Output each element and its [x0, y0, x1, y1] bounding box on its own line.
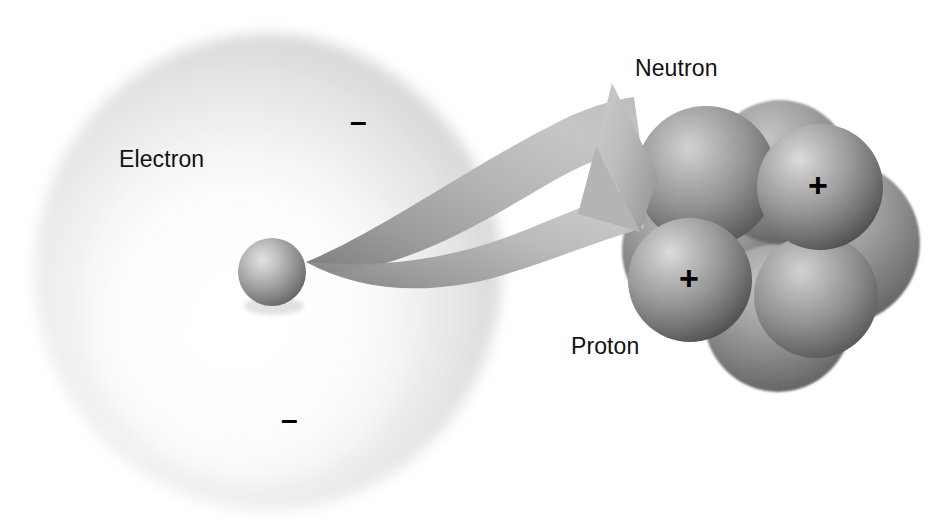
- proton-charge-plus-lower-left: +: [679, 261, 699, 295]
- diagram-svg: [0, 0, 943, 529]
- electron-particle-group: [238, 238, 306, 315]
- atom-diagram-canvas: Electron Neutron Proton – – + +: [0, 0, 943, 529]
- nucleus-cluster: [622, 100, 920, 392]
- label-electron: Electron: [119, 148, 204, 171]
- electron-particle: [238, 238, 306, 306]
- proton-charge-plus-upper-right: +: [808, 168, 828, 202]
- label-proton: Proton: [571, 335, 639, 358]
- electron-charge-minus-bottom: –: [281, 405, 298, 435]
- nucleon-neutron-lower-right: [754, 234, 878, 358]
- label-neutron: Neutron: [635, 57, 718, 80]
- electron-charge-minus-top: –: [350, 107, 367, 137]
